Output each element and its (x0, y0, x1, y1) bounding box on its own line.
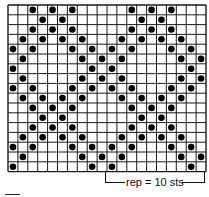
stitch-dot (89, 46, 96, 53)
stitch-dot (89, 163, 96, 170)
stitch-dot (69, 144, 76, 151)
stitch-dot (39, 16, 46, 23)
stitch-dot (158, 95, 165, 102)
stitch-dot (10, 46, 17, 53)
stitch-dot (59, 134, 66, 141)
stitch-dot (20, 75, 27, 82)
stitch-dot (49, 105, 56, 112)
stitch-dot (109, 163, 116, 170)
stitch-dot (39, 36, 46, 43)
repeat-bracket-line-left (105, 182, 125, 183)
stitch-dot (188, 65, 195, 72)
stitch-dot (188, 85, 195, 92)
stitch-dot (119, 95, 126, 102)
stitch-dot (128, 85, 135, 92)
stitch-dot (138, 36, 145, 43)
stitch-dot (20, 134, 27, 141)
stitch-dot (29, 124, 36, 131)
stitch-dot (69, 7, 76, 14)
stitch-dot (99, 75, 106, 82)
stitch-dot (119, 75, 126, 82)
stitch-dot (119, 36, 126, 43)
stitch-dot (49, 26, 56, 33)
stitch-dot (79, 134, 86, 141)
stitch-dot (59, 95, 66, 102)
stitch-dot (158, 16, 165, 23)
stitch-dot (158, 134, 165, 141)
stitch-dot (109, 46, 116, 53)
stitch-dot (89, 65, 96, 72)
stitch-dot (79, 154, 86, 161)
stitch-dot (39, 134, 46, 141)
stitch-dot (168, 85, 175, 92)
stitch-dot (168, 7, 175, 14)
stitch-dot (29, 26, 36, 33)
stitch-dot (198, 154, 205, 161)
stitch-dot (39, 114, 46, 121)
stitch-dot (109, 144, 116, 151)
stitch-dot (69, 124, 76, 131)
stitch-dot (39, 95, 46, 102)
stitch-dot (158, 114, 165, 121)
stitch-dot (109, 85, 116, 92)
stitch-dot (178, 75, 185, 82)
stitch-dot (99, 56, 106, 63)
stitch-dot (168, 26, 175, 33)
stitch-dot (49, 7, 56, 14)
stitch-dot (49, 124, 56, 131)
stitch-dot (188, 163, 195, 170)
stitch-dot (198, 75, 205, 82)
stitch-dot (89, 85, 96, 92)
stitch-dot (128, 144, 135, 151)
stitch-dot (29, 85, 36, 92)
stitch-dot (79, 56, 86, 63)
stitch-dot (99, 154, 106, 161)
stitch-dot (198, 56, 205, 63)
stitch-dot (119, 134, 126, 141)
stitch-dot (128, 124, 135, 131)
stitch-dot (168, 105, 175, 112)
stitch-dot (138, 16, 145, 23)
stitch-dot (29, 144, 36, 151)
stitch-dot (128, 26, 135, 33)
stitch-dot (29, 105, 36, 112)
stitch-dot (119, 56, 126, 63)
key-line (5, 194, 20, 195)
repeat-label: rep = 10 sts (126, 175, 182, 189)
stitch-dot (178, 56, 185, 63)
stitch-dot (20, 95, 27, 102)
stitch-dot (10, 85, 17, 92)
stitch-dot (79, 75, 86, 82)
stitch-dot (148, 124, 155, 131)
stitch-dot (79, 95, 86, 102)
stitch-dot (10, 144, 17, 151)
stitch-dot (59, 114, 66, 121)
stitch-dot (59, 36, 66, 43)
stitch-dot (29, 46, 36, 53)
stitch-dot (79, 36, 86, 43)
stitch-dot (178, 36, 185, 43)
stitch-dot (20, 154, 27, 161)
stitch-dot (128, 46, 135, 53)
stitch-dot (168, 46, 175, 53)
stitch-dot (89, 144, 96, 151)
stitch-dot (138, 134, 145, 141)
stitch-dot (128, 7, 135, 14)
stitch-dot (168, 124, 175, 131)
stitch-dot (178, 154, 185, 161)
stitch-dot (138, 114, 145, 121)
stitch-dot (158, 36, 165, 43)
stitch-dot (69, 85, 76, 92)
grid-svg (7, 4, 207, 173)
knitting-chart-grid (7, 4, 207, 173)
stitch-dot (188, 46, 195, 53)
stitch-dot (20, 36, 27, 43)
stitch-dot (69, 46, 76, 53)
stitch-dot (128, 105, 135, 112)
stitch-dot (119, 154, 126, 161)
stitch-dot (168, 144, 175, 151)
stitch-dot (109, 65, 116, 72)
stitch-dot (148, 26, 155, 33)
stitch-dot (10, 163, 17, 170)
stitch-dot (148, 105, 155, 112)
